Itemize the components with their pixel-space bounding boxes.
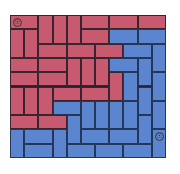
blue-domino-piece[interactable] (138, 87, 152, 116)
red-domino-piece[interactable] (38, 58, 66, 72)
red-domino-piece[interactable] (24, 29, 38, 58)
blue-domino-piece[interactable] (138, 58, 152, 87)
blue-domino-piece[interactable] (138, 29, 166, 43)
red-domino-piece[interactable] (38, 44, 66, 58)
red-domino-piece[interactable] (53, 87, 81, 101)
red-domino-piece[interactable] (10, 29, 24, 58)
red-domino-piece[interactable] (38, 72, 66, 86)
blue-domino-piece[interactable] (152, 72, 166, 101)
red-start-icon: ☉ (13, 18, 22, 27)
red-domino-piece[interactable] (10, 58, 38, 72)
blue-domino-piece[interactable] (109, 29, 137, 43)
blue-domino-piece[interactable] (53, 129, 67, 158)
red-domino-piece[interactable] (109, 72, 123, 101)
game-board: ☉☉ (10, 15, 166, 158)
blue-domino-piece[interactable] (24, 144, 52, 158)
red-domino-piece[interactable] (81, 58, 95, 87)
blue-domino-piece[interactable] (123, 101, 137, 130)
red-domino-piece[interactable] (67, 58, 81, 87)
blue-domino-piece[interactable] (81, 101, 95, 130)
red-domino-piece[interactable] (95, 44, 123, 58)
blue-domino-piece[interactable] (95, 101, 109, 130)
red-domino-piece[interactable] (81, 15, 109, 29)
red-domino-piece[interactable] (10, 115, 38, 129)
red-domino-piece[interactable] (10, 72, 38, 86)
blue-domino-piece[interactable] (67, 144, 95, 158)
blue-domino-piece[interactable] (109, 101, 123, 130)
blue-domino-piece[interactable] (10, 129, 24, 158)
blue-domino-piece[interactable] (138, 115, 152, 144)
red-domino-piece[interactable] (24, 87, 38, 116)
red-domino-piece[interactable] (53, 15, 67, 44)
red-domino-piece[interactable] (38, 87, 52, 116)
red-domino-piece[interactable] (38, 15, 52, 44)
blue-domino-piece[interactable] (109, 129, 137, 143)
blue-domino-piece[interactable] (109, 58, 137, 72)
red-domino-piece[interactable] (81, 87, 109, 101)
red-domino-piece[interactable] (109, 15, 137, 29)
blue-domino-piece[interactable] (24, 129, 52, 143)
red-domino-piece[interactable] (38, 115, 66, 129)
blue-domino-piece[interactable] (53, 101, 81, 115)
blue-domino-piece[interactable] (123, 144, 151, 158)
red-domino-piece[interactable] (67, 15, 81, 44)
blue-domino-piece[interactable] (81, 129, 109, 143)
blue-domino-piece[interactable] (67, 115, 81, 144)
blue-domino-piece[interactable] (152, 44, 166, 73)
red-domino-piece[interactable] (81, 29, 109, 43)
red-domino-piece[interactable] (10, 87, 24, 116)
blue-domino-piece[interactable] (95, 144, 123, 158)
red-domino-piece[interactable] (67, 44, 95, 58)
blue-domino-piece[interactable] (152, 101, 166, 130)
blue-domino-piece[interactable] (123, 72, 137, 101)
red-domino-piece[interactable] (95, 58, 109, 87)
blue-domino-piece[interactable] (123, 44, 151, 58)
red-domino-piece[interactable] (138, 15, 166, 29)
